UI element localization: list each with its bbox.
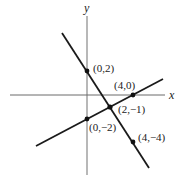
point-2-neg1 xyxy=(107,104,112,109)
label-4-neg4: (4,−4) xyxy=(138,131,166,144)
point-0-2 xyxy=(85,69,90,74)
y-axis-label: y xyxy=(83,1,90,15)
label-0-neg2: (0,−2) xyxy=(89,121,117,134)
steep-line xyxy=(62,33,149,168)
point-4-neg4 xyxy=(131,140,136,145)
point-4-0 xyxy=(131,93,136,98)
label-4-0: (4,0) xyxy=(114,79,135,92)
label-0-2: (0,2) xyxy=(93,62,114,75)
coordinate-plane: y x (0,2) (4,0) (2,−1) (0,−2) (4,−4) xyxy=(0,0,179,178)
x-axis-label: x xyxy=(168,88,175,102)
label-2-neg1: (2,−1) xyxy=(118,103,146,116)
